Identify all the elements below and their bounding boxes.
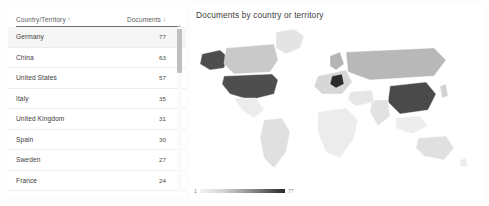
region-china (388, 82, 436, 114)
region-united-states (222, 74, 278, 100)
region-alaska (200, 50, 228, 70)
sort-descending-icon: ↓ (163, 16, 166, 22)
table-row[interactable]: Italy 35 (8, 89, 186, 110)
row-country: Germany (16, 33, 154, 40)
table-row[interactable]: China 63 (8, 48, 186, 69)
row-country: Spain (16, 136, 154, 143)
row-documents: 57 (154, 74, 166, 81)
table-row[interactable]: Sweden 27 (8, 150, 186, 171)
legend-min-label: 1 (194, 189, 197, 194)
map-legend: 1 77 (194, 189, 294, 194)
table-row[interactable]: United Kingdom 31 (8, 109, 186, 130)
region-africa (318, 108, 358, 158)
region-greenland (276, 29, 304, 54)
table-row[interactable]: United States 57 (8, 68, 186, 89)
region-australia (416, 136, 454, 160)
column-header-documents[interactable]: Documents ↓ (127, 16, 166, 23)
world-map-svg (190, 24, 484, 176)
table-row[interactable]: France 24 (8, 171, 186, 192)
row-documents: 77 (154, 33, 166, 40)
region-mexico (234, 98, 264, 118)
region-canada (224, 44, 278, 74)
region-middle-east (348, 90, 374, 106)
row-country: United Kingdom (16, 115, 154, 122)
region-japan (440, 84, 448, 98)
region-south-america (260, 118, 290, 168)
table-header-row: Country/Territory ↑ Documents ↓ (8, 6, 186, 26)
row-documents: 24 (154, 177, 166, 184)
region-new-zealand (460, 158, 468, 167)
table-body: Germany 77 China 63 United States 57 Ita… (8, 27, 186, 196)
choropleth-map[interactable] (190, 24, 484, 176)
row-country: China (16, 54, 154, 61)
scroll-up-icon[interactable]: ▲ (177, 23, 182, 28)
table-scrollbar[interactable]: ▲ (177, 27, 182, 192)
table-row[interactable]: Spain 30 (8, 130, 186, 151)
row-country: Italy (16, 95, 154, 102)
row-country: France (16, 177, 154, 184)
column-header-country[interactable]: Country/Territory ↑ (16, 16, 127, 23)
row-country: United States (16, 74, 154, 81)
map-title: Documents by country or territory (196, 10, 324, 20)
sort-ascending-icon: ↑ (68, 16, 71, 22)
map-panel: Documents by country or territory (190, 4, 484, 202)
row-documents: 31 (154, 115, 166, 122)
column-header-documents-label: Documents (127, 16, 161, 23)
region-india (370, 100, 390, 126)
scrollbar-thumb[interactable] (177, 29, 182, 73)
row-documents: 27 (154, 156, 166, 163)
column-header-country-label: Country/Territory (16, 16, 66, 23)
row-documents: 35 (154, 95, 166, 102)
row-documents: 63 (154, 54, 166, 61)
dashboard-page: Country/Territory ↑ Documents ↓ Germany … (0, 0, 489, 206)
row-country: Sweden (16, 156, 154, 163)
region-russia (346, 48, 446, 80)
table-row[interactable]: Germany 77 (8, 27, 186, 48)
legend-gradient-bar (200, 189, 285, 193)
region-sweden (330, 52, 344, 70)
documents-table: Country/Territory ↑ Documents ↓ Germany … (8, 6, 186, 196)
region-southeast-asia (396, 116, 428, 134)
legend-max-label: 77 (288, 189, 294, 194)
row-documents: 30 (154, 136, 166, 143)
